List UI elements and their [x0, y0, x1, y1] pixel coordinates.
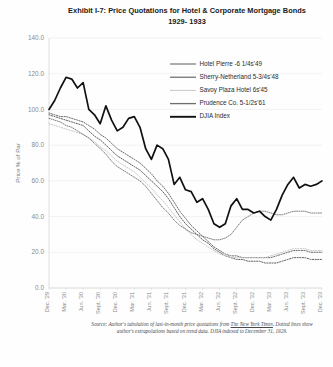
x-tick-label: Jun. '33 — [283, 292, 289, 311]
series-line — [49, 118, 322, 239]
x-tick-label: Mar. '30 — [61, 292, 67, 312]
y-tick-label: 140.0 — [28, 34, 44, 41]
chart-figure: Exhibit I-7: Price Quotations for Hotel … — [0, 0, 333, 367]
x-tick-label: Mar. '33 — [266, 292, 272, 312]
y-axis-ticks: 0.020.040.060.080.0100.0120.0140.0 — [28, 34, 44, 291]
legend-label: Hotel Pierre -6 1/4s'49 — [200, 60, 263, 67]
legend-label: DJIA Index — [200, 112, 231, 119]
legend-label: Prudence Co. 5-1/2s'61 — [200, 99, 266, 106]
chart-legend: Hotel Pierre -6 1/4s'49Sherry-Netherland… — [170, 60, 279, 120]
legend-label: Sherry-Netherland 5-3/4s'48 — [200, 73, 279, 81]
x-tick-label: Dec. '30 — [112, 292, 118, 312]
y-tick-label: 20.0 — [32, 248, 45, 255]
x-tick-label: Dec. '31 — [181, 292, 187, 312]
x-tick-label: Mar. '32 — [198, 292, 204, 312]
plot-frame — [49, 38, 322, 288]
x-tick-label: Jun. '32 — [215, 292, 221, 311]
x-axis-ticks: Dec. '29Mar. '30Jun. '30Sept. '30Dec. '3… — [44, 288, 323, 314]
y-tick-label: 120.0 — [28, 70, 44, 77]
chart-canvas: 0.020.040.060.080.0100.0120.0140.0 Dec. … — [0, 0, 333, 367]
data-series — [49, 77, 322, 263]
x-tick-label: Jun. '30 — [78, 292, 84, 311]
y-tick-label: 60.0 — [32, 177, 45, 184]
x-tick-label: Dec. '32 — [249, 292, 255, 312]
y-tick-label: 0.0 — [35, 284, 44, 291]
y-axis-title: Price % of Par — [14, 143, 21, 183]
x-tick-label: Sept. '32 — [232, 292, 238, 314]
x-tick-label: Sept. '30 — [95, 292, 101, 314]
y-tick-label: 40.0 — [32, 213, 45, 220]
series-line — [49, 113, 322, 258]
source-note-publication: The New York Times — [231, 321, 273, 327]
x-tick-label: Dec. '29 — [44, 292, 50, 312]
source-note-prefix: Source: Author's tabulation of last-in-m… — [91, 321, 230, 327]
x-tick-label: Sept. '31 — [163, 292, 169, 314]
gridlines — [49, 38, 322, 288]
y-tick-label: 100.0 — [28, 106, 44, 113]
y-axis-title-text: Price % of Par — [14, 143, 21, 183]
x-tick-label: Jun. '31 — [146, 292, 152, 311]
series-line — [49, 77, 322, 227]
x-tick-label: Dec. '33 — [317, 292, 323, 312]
x-tick-label: Sept. '33 — [300, 292, 306, 314]
source-note: Source: Author's tabulation of last-in-m… — [86, 321, 318, 336]
x-tick-label: Mar. '31 — [129, 292, 135, 312]
legend-label: Savoy Plaza Hotel 6s'45 — [200, 86, 269, 94]
y-tick-label: 80.0 — [32, 141, 45, 148]
